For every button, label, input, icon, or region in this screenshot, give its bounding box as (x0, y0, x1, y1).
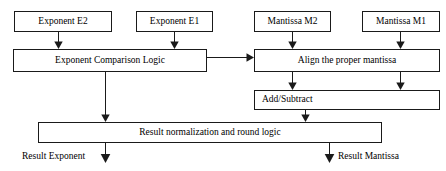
node-exponent-e1[interactable]: Exponent E1 (136, 11, 213, 32)
connector-e1-to-comparison (170, 32, 178, 49)
block-diagram: Exponent E2 Exponent E1 Mantissa M2 Mant… (0, 0, 446, 171)
connector-comparison-to-normalization (101, 72, 109, 122)
node-align-mantissa[interactable]: Align the proper mantissa (254, 49, 440, 72)
node-exponent-comparison-logic[interactable]: Exponent Comparison Logic (13, 49, 207, 72)
connector-m1-to-align (396, 32, 404, 49)
connector-addsub-to-normalization (301, 110, 309, 122)
node-exponent-e2[interactable]: Exponent E2 (14, 11, 112, 32)
node-mantissa-m1[interactable]: Mantissa M1 (362, 11, 440, 32)
connector-align-to-addsub-right (396, 72, 404, 90)
node-result-normalization-label: Result normalization and round logic (139, 128, 280, 138)
label-result-exponent: Result Exponent (22, 152, 85, 162)
connector-comparison-to-align (207, 53, 254, 61)
node-exponent-e2-label: Exponent E2 (38, 17, 87, 27)
node-add-subtract-label: Add/Subtract (262, 95, 313, 105)
connector-normalization-to-result-mantissa (325, 143, 335, 163)
node-align-mantissa-label: Align the proper mantissa (298, 56, 396, 66)
node-add-subtract[interactable]: Add/Subtract (254, 90, 440, 110)
node-exponent-comparison-logic-label: Exponent Comparison Logic (55, 56, 165, 66)
connector-e2-to-comparison (54, 32, 62, 49)
node-mantissa-m2-label: Mantissa M2 (268, 17, 318, 27)
node-exponent-e1-label: Exponent E1 (150, 17, 199, 27)
node-mantissa-m1-label: Mantissa M1 (376, 17, 426, 27)
node-mantissa-m2[interactable]: Mantissa M2 (254, 11, 331, 32)
connector-m2-to-align (288, 32, 296, 49)
label-result-mantissa: Result Mantissa (338, 152, 399, 162)
connector-align-to-addsub-left (288, 72, 296, 90)
connector-normalization-to-result-exponent (101, 143, 111, 163)
node-result-normalization[interactable]: Result normalization and round logic (38, 122, 382, 143)
